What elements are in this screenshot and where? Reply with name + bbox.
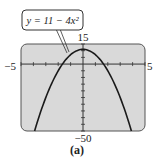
x-min-label: −5 — [4, 60, 16, 72]
figure-caption: (a) — [0, 143, 154, 158]
x-max-label: 5 — [147, 60, 153, 72]
y-max-label: 15 — [78, 31, 90, 43]
equation-label: y = 11 − 4x² — [25, 15, 79, 26]
chart-svg: −5 5 15 −50 y = 11 − 4x² — [0, 0, 154, 163]
graph-figure: −5 5 15 −50 y = 11 − 4x² (a) — [0, 0, 154, 163]
